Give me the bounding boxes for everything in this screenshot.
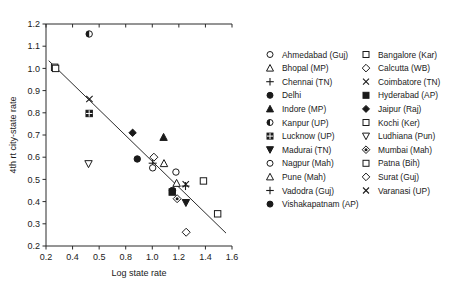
y-tick-label: 0.4 <box>27 197 40 207</box>
y-tick-label: 1.2 <box>27 19 40 29</box>
marker-circle-open <box>267 52 273 58</box>
marker-square-hatched <box>267 133 273 139</box>
legend-item-label: Calcutta (WB) <box>378 63 430 73</box>
legend-item-label: Ludhiana (Pun) <box>378 131 435 141</box>
marker-square-open <box>363 160 369 166</box>
marker-circle-fill <box>267 92 273 98</box>
legend-item-label: Bhopal (MP) <box>282 63 329 73</box>
y-tick-label: 1.1 <box>27 41 40 51</box>
legend-item-label: Madurai (TN) <box>282 145 332 155</box>
marker-circle-halfleft <box>267 120 273 126</box>
legend-item-label: Vadodra (Guj) <box>282 186 334 196</box>
marker-circle-fill <box>267 201 273 207</box>
legend-item-label: Surat (Guj) <box>378 172 419 182</box>
x-tick-label: 0.5 <box>93 252 106 262</box>
legend-item-label: Chennai (TN) <box>282 77 332 87</box>
data-point: Ahmedabad (Guj) <box>149 165 155 171</box>
legend-item-label: Vishakapatnam (AP) <box>282 199 359 209</box>
data-point: Kanpur (UP) <box>86 31 92 37</box>
legend-item-label: Pune (Mah) <box>282 172 326 182</box>
legend-item-label: Bangalore (Kar) <box>378 50 437 60</box>
legend-item-label: Coimbatore (TN) <box>378 77 441 87</box>
legend-item-label: Hyderabad (AP) <box>378 90 438 100</box>
x-tick-label: 0.8 <box>119 252 132 262</box>
y-tick-label: 0.2 <box>27 241 40 251</box>
legend-item-label: Patna (Bih) <box>378 158 420 168</box>
data-point: Patna (Bih) <box>200 178 206 184</box>
x-axis-title: Log state rate <box>111 268 166 278</box>
y-axis-title: 4th rt city-state rate <box>8 96 18 173</box>
data-point: Nagpur (Mah) <box>173 169 179 175</box>
data-point: Kochi (Ker) 2 <box>214 211 220 217</box>
y-tick-label: 0.7 <box>27 130 40 140</box>
marker-square-open <box>363 52 369 58</box>
y-axis-label-text: 4th rt city-state rate <box>8 96 18 173</box>
x-tick-label: 0.4 <box>66 252 79 262</box>
y-tick-label: 0.8 <box>27 108 40 118</box>
legend-item-label: Indore (MP) <box>282 104 326 114</box>
data-point: Lucknow (UP) <box>86 110 92 116</box>
x-tick-label: 1.2 <box>173 252 186 262</box>
legend-item-label: Varanasi (UP) <box>378 186 430 196</box>
scatter-plot-figure: 0.20.30.40.50.60.70.80.91.01.11.2 0.20.4… <box>0 0 456 296</box>
y-tick-label: 0.5 <box>27 175 40 185</box>
y-tick-label: 1.0 <box>27 64 40 74</box>
chart-canvas: 0.20.30.40.50.60.70.80.91.01.11.2 0.20.4… <box>0 0 456 296</box>
x-tick-label: 1.6 <box>226 252 239 262</box>
data-point: Hyderabad (AP) <box>169 189 175 195</box>
y-tick-label: 0.9 <box>27 86 40 96</box>
marker-square-fill <box>363 92 369 98</box>
y-tick-label: 0.6 <box>27 152 40 162</box>
legend-item-label: Kanpur (UP) <box>282 118 329 128</box>
x-tick-label: 1.0 <box>146 252 159 262</box>
data-point: Bangalore (Kar) <box>52 65 58 71</box>
legend-item-label: Ahmedabad (Guj) <box>282 50 348 60</box>
x-tick-label: 0.2 <box>40 252 53 262</box>
x-tick-label: 1.4 <box>199 252 212 262</box>
marker-circle-open <box>267 160 273 166</box>
legend-item-label: Mumbai (Mah) <box>378 145 432 155</box>
x-axis-label-text: Log state rate <box>111 268 166 278</box>
data-point: Vishakapatnam (AP) <box>134 156 140 162</box>
legend-item-label: Delhi <box>282 90 301 100</box>
legend-item-label: Jaipur (Raj) <box>378 104 421 114</box>
marker-square-open <box>363 120 369 126</box>
y-tick-label: 0.3 <box>27 219 40 229</box>
legend-item-label: Kochi (Ker) <box>378 118 420 128</box>
legend-item-label: Nagpur (Mah) <box>282 158 334 168</box>
legend-item-label: Lucknow (UP) <box>282 131 335 141</box>
